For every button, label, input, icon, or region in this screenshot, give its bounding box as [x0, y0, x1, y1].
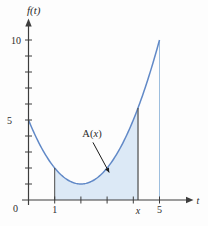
- function-curve: [29, 40, 160, 184]
- region-boundary-x-label: x: [135, 205, 141, 216]
- origin-label: 0: [13, 203, 18, 214]
- x-tick-labels: 15: [52, 204, 162, 215]
- y-tick-label-5: 5: [7, 115, 12, 126]
- area-annotation-label: A(x): [82, 128, 102, 140]
- y-tick-labels: 510: [7, 35, 21, 126]
- chart-canvas: 510 15 f(t) t 0 x A(x): [0, 0, 208, 226]
- y-axis-label: f(t): [27, 4, 41, 17]
- y-tick-label-10: 10: [11, 35, 21, 46]
- function-area-figure: 510 15 f(t) t 0 x A(x): [0, 0, 208, 226]
- x-axis-arrowhead-icon: [186, 197, 194, 203]
- shaded-area-A-of-x: [55, 108, 138, 200]
- x-tick-label-5: 5: [157, 204, 162, 215]
- x-axis-label: t: [197, 195, 200, 206]
- annotation-arrow: [93, 142, 109, 172]
- y-axis-arrowhead-icon: [25, 19, 31, 27]
- x-tick-label-1: 1: [52, 204, 57, 215]
